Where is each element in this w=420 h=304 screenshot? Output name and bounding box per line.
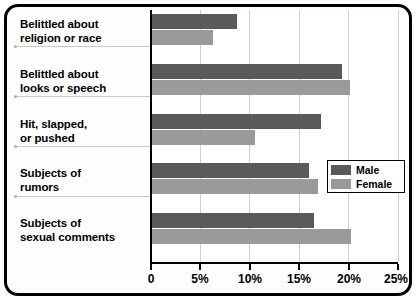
category-separator-0 — [14, 46, 150, 47]
bar-male-2 — [150, 114, 321, 129]
legend-label-male: Male — [356, 165, 379, 176]
x-axis-line — [150, 262, 398, 264]
chart-screenshot: Belittled about religion or race Belittl… — [0, 0, 420, 304]
x-tick-0 — [150, 264, 152, 270]
legend-label-female: Female — [356, 179, 392, 190]
category-label-2-line-2: or pushed — [20, 132, 152, 146]
legend-entry-female: Female — [331, 177, 401, 191]
category-label-3-line-2: rumors — [20, 181, 152, 195]
x-tick-label-10: 10% — [238, 272, 262, 286]
category-label-3: Subjects of rumors — [20, 167, 152, 194]
category-label-1: Belittled about looks or speech — [20, 68, 152, 95]
category-label-1-line-2: looks or speech — [20, 82, 152, 96]
category-separator-2 — [14, 146, 150, 147]
x-tick-20 — [348, 264, 350, 270]
bar-male-4 — [150, 213, 314, 228]
legend-swatch-male-icon — [331, 165, 351, 175]
x-tick-label-20: 20% — [337, 272, 361, 286]
legend-entry-male: Male — [331, 163, 401, 177]
y-axis-line — [150, 10, 152, 264]
category-label-1-line-1: Belittled about — [20, 68, 98, 80]
gridline-20 — [348, 10, 349, 262]
category-label-3-line-1: Subjects of — [20, 167, 81, 179]
x-tick-label-15: 15% — [287, 272, 311, 286]
category-label-2: Hit, slapped, or pushed — [20, 118, 152, 145]
category-label-0-line-2: religion or race — [20, 32, 152, 46]
plot-area — [150, 10, 398, 262]
category-separator-1 — [14, 96, 150, 97]
category-label-4-line-1: Subjects of — [20, 217, 81, 229]
category-label-column: Belittled about religion or race Belittl… — [16, 10, 150, 262]
gridline-25 — [398, 10, 399, 262]
bar-female-3 — [150, 179, 318, 194]
x-tick-10 — [249, 264, 251, 270]
category-label-0: Belittled about religion or race — [20, 18, 152, 45]
bar-female-0 — [150, 30, 213, 45]
legend-swatch-female-icon — [331, 179, 351, 189]
category-label-4-line-2: sexual comments — [20, 231, 152, 245]
x-tick-15 — [298, 264, 300, 270]
category-separator-3 — [14, 196, 150, 197]
bar-female-1 — [150, 80, 350, 95]
x-tick-label-0: 0 — [148, 272, 155, 286]
category-label-4: Subjects of sexual comments — [20, 217, 152, 244]
x-tick-label-25: 25% — [384, 272, 408, 286]
x-tick-25 — [397, 264, 399, 270]
bar-female-2 — [150, 130, 255, 145]
bar-male-1 — [150, 64, 342, 79]
bar-male-3 — [150, 163, 309, 178]
category-label-2-line-1: Hit, slapped, — [20, 118, 87, 130]
bar-female-4 — [150, 229, 351, 244]
chart-legend: Male Female — [327, 160, 405, 193]
x-tick-5 — [199, 264, 201, 270]
bar-male-0 — [150, 14, 237, 29]
x-tick-label-5: 5% — [191, 272, 208, 286]
category-label-0-line-1: Belittled about — [20, 18, 98, 30]
